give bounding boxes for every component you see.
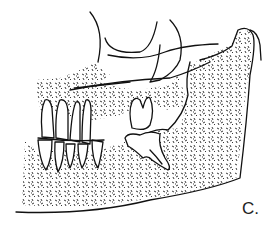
zygoma-line: [105, 22, 157, 52]
panel-label: C.: [242, 199, 259, 219]
upper-molar: [130, 97, 153, 129]
zygomatic-arch: [108, 44, 218, 58]
orbit-line: [90, 12, 100, 62]
upper-tooth: [56, 100, 68, 140]
jaw-diagram: [0, 0, 275, 240]
